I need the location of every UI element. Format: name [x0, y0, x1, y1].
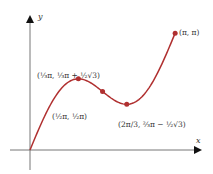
y-axis-arrow-icon — [26, 15, 34, 23]
y-axis-label: y — [38, 12, 43, 21]
min-point-label: (2π/3, ⅔π − ½√3) — [118, 120, 186, 129]
x-axis-label: x — [196, 136, 201, 145]
data-point — [173, 31, 178, 36]
key-points — [76, 31, 178, 107]
end-point-label: (π, π) — [179, 28, 199, 37]
max-point-label: (⅓π, ⅓π + ½√3) — [37, 71, 100, 80]
inflection-point-label: (½π, ½π) — [52, 112, 87, 121]
data-point — [100, 89, 105, 94]
x-axis-arrow-icon — [194, 146, 202, 154]
data-point — [124, 102, 129, 107]
chart-canvas — [0, 0, 213, 174]
